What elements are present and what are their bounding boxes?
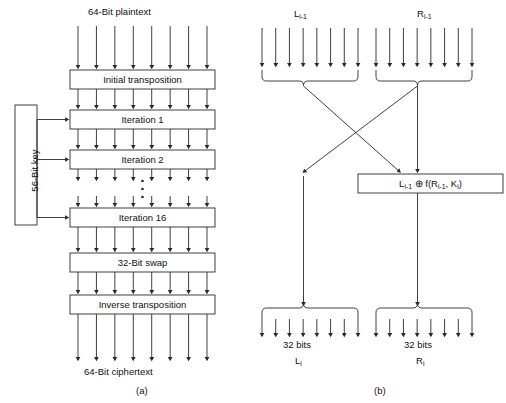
panel-b-bottom-right-bits: 32 bits xyxy=(404,340,432,350)
panel-b-bottom-right-name: Ri xyxy=(416,356,424,367)
panel-b-top-right-label: Ri-1 xyxy=(417,9,431,20)
panel-a-ellipsis-dot-2 xyxy=(141,188,144,191)
panel-b-L-to-xor-arrow xyxy=(304,86,401,172)
panel-a-caption: (a) xyxy=(136,385,148,396)
des-figure: 64-Bit plaintext 64-Bit ciphertext 56-Bi… xyxy=(0,0,506,403)
label-Ri-base: R xyxy=(416,355,423,366)
box-initial-transposition-frame xyxy=(70,70,215,89)
panel-b-bottom-left-name: Li xyxy=(295,356,302,367)
panel-b-R-to-left-arrow xyxy=(304,86,418,172)
panel-b-bottom-left-bits: 32 bits xyxy=(283,340,311,350)
panel-b-top-left-label: Li-1 xyxy=(294,9,307,20)
box-iteration-2-frame xyxy=(70,150,215,169)
panel-a-input-label: 64-Bit plaintext xyxy=(88,7,151,17)
box-32-bit-swap-frame xyxy=(70,253,215,272)
label-L-subscript: i-1 xyxy=(299,13,307,20)
box-inverse-transposition-frame xyxy=(70,295,215,314)
xor-box-frame xyxy=(358,174,503,193)
label-Ri-subscript: i xyxy=(423,360,425,367)
panel-b-caption: (b) xyxy=(374,385,386,396)
panel-b-L-top-brace xyxy=(262,70,358,86)
panel-a-ellipsis-dot-3 xyxy=(141,196,144,199)
label-R-subscript: i-1 xyxy=(424,13,432,20)
panel-b-R-bottom-brace xyxy=(376,304,472,320)
panel-b-R-top-brace xyxy=(376,70,472,86)
key-box-label: 56-Bit key xyxy=(29,136,40,206)
label-R-base: R xyxy=(417,8,424,19)
label-Li-subscript: i xyxy=(300,360,302,367)
box-iteration-16-frame xyxy=(70,208,215,227)
panel-a-ellipsis-dot-1 xyxy=(141,180,144,183)
box-iteration-1-frame xyxy=(70,110,215,129)
panel-b-L-bottom-brace xyxy=(262,304,358,320)
panel-a-output-label: 64-Bit ciphertext xyxy=(84,367,153,377)
